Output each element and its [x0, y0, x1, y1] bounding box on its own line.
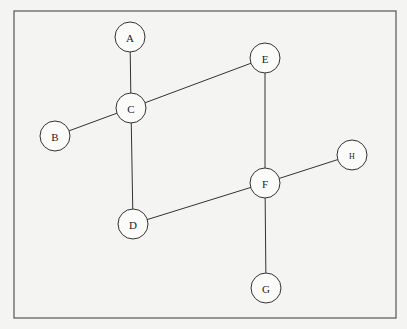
node-label: G [262, 283, 270, 295]
node-b: B [40, 121, 70, 151]
node-h: H [337, 140, 367, 170]
node-f: F [250, 168, 280, 198]
node-label: F [262, 178, 268, 190]
node-label: A [126, 32, 134, 44]
edges-layer [55, 37, 352, 288]
edge-d-f [133, 183, 265, 224]
edge-c-d [131, 108, 133, 224]
node-label: E [262, 53, 269, 65]
node-label: B [51, 131, 58, 143]
node-g: G [251, 273, 281, 303]
graph-canvas: ABCDEFGH [0, 0, 407, 329]
node-a: A [115, 22, 145, 52]
node-label: D [129, 219, 137, 231]
nodes-layer: ABCDEFGH [40, 22, 367, 303]
node-label: C [127, 103, 134, 115]
edge-f-g [265, 183, 266, 288]
node-c: C [116, 93, 146, 123]
diagram-frame [14, 11, 396, 318]
node-e: E [250, 43, 280, 73]
node-d: D [118, 209, 148, 239]
node-label: H [349, 152, 355, 161]
edge-c-e [131, 58, 265, 108]
